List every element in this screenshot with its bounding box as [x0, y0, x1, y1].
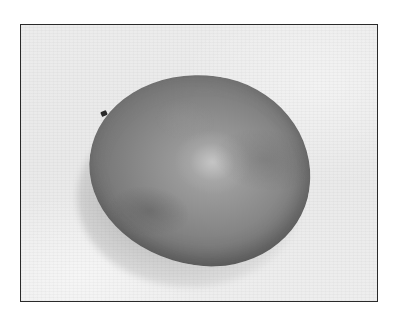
photo-frame [20, 24, 378, 302]
